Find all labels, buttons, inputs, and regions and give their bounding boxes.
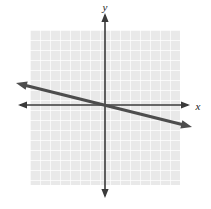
line-arrow-right-icon (180, 120, 192, 128)
graph-figure: y x (0, 0, 211, 209)
y-axis-arrow-up-icon (101, 13, 108, 22)
line-arrow-left-icon (16, 81, 28, 89)
x-axis-label: x (195, 100, 201, 112)
coordinate-plane-svg: y x (0, 0, 211, 209)
x-axis-arrow-left-icon (18, 101, 27, 108)
y-axis-label: y (102, 1, 108, 13)
y-axis-arrow-down-icon (101, 189, 108, 198)
x-axis-arrow-right-icon (181, 101, 190, 108)
